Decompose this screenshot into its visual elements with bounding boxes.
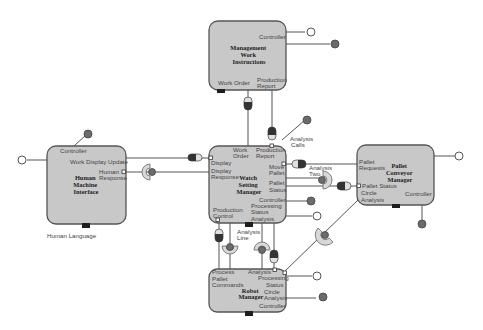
port-label-pallet-status: Pallet Status — [362, 182, 397, 189]
port-label-controller: Controller — [259, 302, 286, 309]
connector-icon — [244, 97, 252, 110]
ball-icon — [84, 130, 92, 138]
component-human-machine-interface[interactable]: Human Machine Interface Controller Work … — [47, 146, 129, 239]
connector-icon — [215, 229, 223, 242]
component-watch-setting-manager[interactable]: Watch Setting Manager Work Order Product… — [209, 144, 287, 227]
socket-icon — [142, 164, 156, 180]
open-circle-icon — [18, 156, 26, 164]
ball-icon — [307, 197, 315, 205]
open-circle-icon — [313, 272, 321, 280]
open-circle-icon — [455, 152, 463, 160]
component-title: Robot Manager — [239, 287, 264, 300]
connector-icon — [337, 182, 351, 190]
connector-icon — [270, 250, 278, 263]
ball-icon — [303, 116, 311, 124]
component-base-marker — [82, 223, 90, 228]
component-pallet-conveyor-manager[interactable]: Pallet Conveyor Manager Pallet Requests … — [357, 145, 434, 208]
component-base-marker — [217, 89, 225, 93]
port-label-work-display-update: Work Display Update — [70, 158, 129, 165]
socket-icon — [254, 242, 270, 254]
label-human-language: Human Language — [47, 232, 97, 239]
connector-icon — [188, 154, 202, 161]
port-label-work-order: Work Order — [218, 79, 250, 86]
port-label-pallet-status: Pallet Status — [269, 179, 287, 193]
component-base-marker — [245, 311, 253, 316]
port-label-controller: Controller — [60, 147, 87, 154]
component-base-marker — [245, 222, 253, 227]
component-management-work-instructions[interactable]: Management Work Instructions Controller … — [209, 21, 288, 93]
socket-icon — [222, 244, 238, 255]
port-label-controller: Controller — [259, 33, 286, 40]
open-circle-icon — [313, 212, 321, 220]
ball-icon — [331, 40, 339, 48]
component-robot-manager[interactable]: Robot Manager Process Pallet Commands An… — [209, 268, 290, 316]
connector-icon — [268, 127, 276, 140]
component-title: Watch Setting Manager — [237, 174, 262, 195]
label-analysis-calls: Analysis Calls — [290, 135, 315, 148]
socket-icon — [315, 228, 333, 245]
component-title: Human Machine Interface — [73, 174, 98, 195]
component-base-marker — [392, 204, 400, 208]
open-circle-icon — [307, 28, 315, 36]
label-analysis-line: Analysis Line — [237, 228, 262, 241]
connector-icon — [292, 160, 306, 168]
port-label-controller: Controller — [405, 190, 432, 197]
port-label-work-order: Work Order — [233, 146, 249, 159]
ball-icon — [418, 220, 426, 228]
ball-icon — [319, 293, 327, 301]
port-label-display: Display — [211, 159, 232, 166]
